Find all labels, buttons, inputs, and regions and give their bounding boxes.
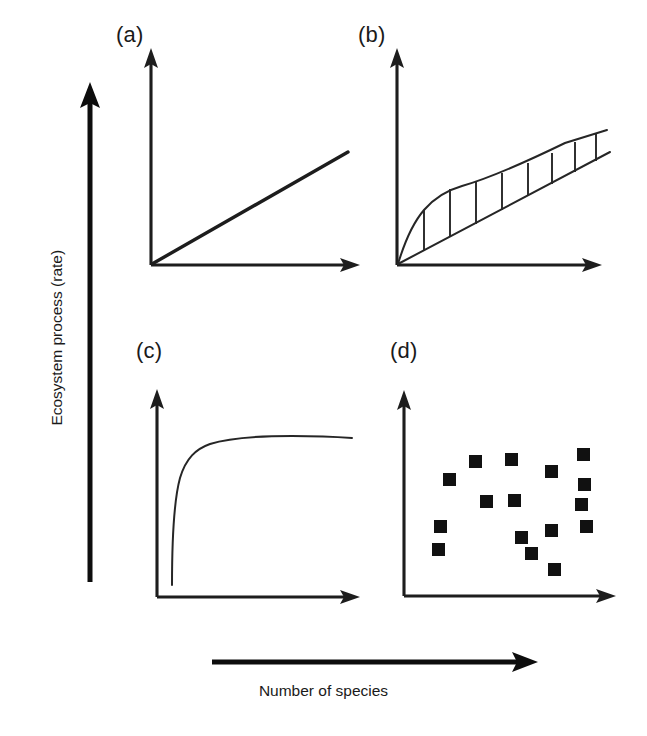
scatter-marker [505, 453, 518, 466]
scatter-marker [480, 495, 493, 508]
global-x-arrow [212, 652, 538, 672]
panel-b [390, 48, 610, 272]
panel-label-d: (d) [390, 340, 418, 362]
figure-canvas [0, 0, 647, 736]
panel-b-axes [390, 48, 602, 272]
scatter-marker [545, 524, 558, 537]
panel-d [397, 390, 616, 603]
panel-b-hatching [424, 133, 596, 251]
panel-c-axes [150, 389, 360, 604]
panel-a [144, 48, 360, 272]
panel-a-axes [144, 48, 360, 272]
figure-root: (a) (b) (c) (d) Ecosystem process (rate)… [0, 0, 647, 736]
scatter-marker [525, 547, 538, 560]
y-axis-title: Ecosystem process (rate) [49, 213, 65, 463]
x-axis-title: Number of species [0, 683, 647, 699]
scatter-marker [575, 498, 588, 511]
scatter-marker [432, 543, 445, 556]
scatter-marker [545, 465, 558, 478]
scatter-marker [548, 563, 561, 576]
panel-c-saturating-curve [172, 436, 352, 585]
scatter-marker [434, 520, 447, 533]
panel-label-a: (a) [116, 24, 144, 46]
scatter-marker [508, 494, 521, 507]
scatter-marker [515, 531, 528, 544]
panel-c [150, 389, 360, 604]
figure-caption [8, 722, 644, 736]
panel-d-axes [397, 390, 616, 603]
scatter-marker [577, 448, 590, 461]
panel-a-line-series [152, 152, 348, 264]
panel-label-b: (b) [358, 24, 386, 46]
scatter-marker [578, 478, 591, 491]
panel-label-c: (c) [136, 340, 162, 362]
scatter-marker [443, 473, 456, 486]
scatter-marker [580, 520, 593, 533]
global-y-arrow [80, 82, 100, 582]
panel-d-scatter-points [432, 448, 593, 576]
scatter-marker [469, 455, 482, 468]
panel-b-lower-bound [398, 152, 610, 264]
